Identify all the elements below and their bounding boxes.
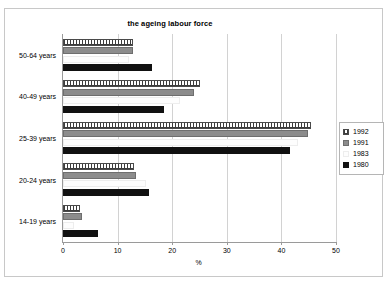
plot-area: 01020304050 14-19 years20-24 years25-39 … (62, 34, 336, 243)
bar-1992 (63, 39, 133, 46)
legend-swatch-icon (343, 129, 349, 135)
x-tick-mark (172, 242, 173, 245)
bar-1983 (63, 222, 74, 229)
bar-1992 (63, 122, 311, 129)
bar-1992 (63, 163, 134, 170)
x-tick-label: 20 (168, 247, 176, 254)
bar-1980 (63, 189, 149, 196)
bar-group: 14-19 years (63, 200, 336, 242)
category-label: 14-19 years (19, 218, 56, 225)
x-axis-title: % (62, 259, 335, 266)
bar-1992 (63, 80, 200, 87)
bar-1980 (63, 106, 164, 113)
x-tick-mark (63, 242, 64, 245)
legend-label: 1991 (353, 139, 369, 146)
x-tick-label: 40 (277, 247, 285, 254)
bar-group: 20-24 years (63, 159, 336, 201)
bar-1980 (63, 64, 152, 71)
category-label: 50-64 years (19, 51, 56, 58)
bar-1983 (63, 180, 146, 187)
gridline (336, 34, 337, 242)
chart-title: the ageing labour force (5, 19, 335, 28)
x-tick-label: 50 (332, 247, 340, 254)
legend-item-1991[interactable]: 1991 (343, 137, 380, 148)
legend-swatch-icon (343, 162, 349, 168)
x-tick-label: 0 (61, 247, 65, 254)
legend-label: 1992 (353, 128, 369, 135)
bar-1983 (63, 56, 129, 63)
bar-group: 50-64 years (63, 34, 336, 76)
legend-swatch-icon (343, 151, 349, 157)
bar-1983 (63, 97, 180, 104)
bar-1980 (63, 230, 98, 237)
chart-legend: 1992199119831980 (339, 122, 384, 175)
legend-item-1992[interactable]: 1992 (343, 126, 380, 137)
legend-item-1983[interactable]: 1983 (343, 148, 380, 159)
category-label: 40-49 years (19, 93, 56, 100)
legend-item-1980[interactable]: 1980 (343, 159, 380, 170)
category-label: 25-39 years (19, 134, 56, 141)
category-label: 20-24 years (19, 176, 56, 183)
legend-swatch-icon (343, 140, 349, 146)
bar-group: 25-39 years (63, 117, 336, 159)
bar-1991 (63, 172, 136, 179)
chart-frame: the ageing labour force 01020304050 14-1… (4, 8, 383, 277)
x-tick-mark (227, 242, 228, 245)
bar-1991 (63, 213, 82, 220)
x-tick-label: 10 (114, 247, 122, 254)
bar-1991 (63, 47, 133, 54)
bar-1991 (63, 130, 308, 137)
legend-label: 1980 (353, 161, 369, 168)
legend-label: 1983 (353, 150, 369, 157)
x-tick-label: 30 (223, 247, 231, 254)
x-tick-mark (336, 242, 337, 245)
x-tick-mark (281, 242, 282, 245)
x-tick-mark (118, 242, 119, 245)
bar-1980 (63, 147, 290, 154)
bar-1992 (63, 205, 80, 212)
bar-1983 (63, 139, 298, 146)
bar-1991 (63, 89, 194, 96)
bar-group: 40-49 years (63, 76, 336, 118)
